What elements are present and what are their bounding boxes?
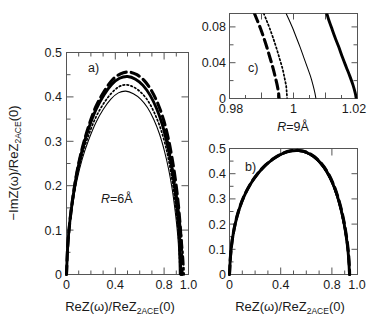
panel-c-tag: c) [248,61,258,75]
panel-a-curves [67,72,184,274]
panel-a-xtick-2: 0.4 [107,278,124,292]
panel-a-xlabel-sub: 2ACE [137,306,160,316]
panel-b-ytick-3: 0.3 [209,192,226,206]
panel-c-annotation: R=9Å [277,119,309,134]
panel-b-xtick-2: 0.4 [272,278,289,292]
panel-c-xtick-2: 1 [290,102,297,116]
panel-b-ytick-2: 0.2 [209,218,226,232]
panel-b-ytick-5: 0.5 [209,142,226,156]
svg-text:ReZ(ω)/ReZ2ACE(0): ReZ(ω)/ReZ2ACE(0) [235,299,345,316]
y-axis-title-pre: −ImZ(ω)/ReZ [6,144,21,221]
panel-b-xlabel-post: (0) [329,299,345,314]
panel-a-xtick-5: 1.0 [180,278,197,292]
panel-b-x-axis-title: ReZ(ω)/ReZ2ACE(0) [235,299,345,316]
panel-b-ytick-0: 0 [219,268,226,282]
panel-a-xlabel-post: (0) [159,299,175,314]
panel-b-xtick-5: 1.0 [348,278,365,292]
panel-b-xtick-0: 0 [226,278,233,292]
panel-c-annotation-symbol: R [277,120,286,134]
panel-a-ytick-1: 0.1 [45,224,62,238]
panel-a-curve-thick-dashed [67,72,183,274]
panel-c-frame [230,14,358,99]
panel-a-curve-dotted [67,85,181,275]
panel-a-ytick-4: 0.4 [45,90,62,104]
panel-a-xtick-4: 0.8 [155,278,172,292]
panel-a-ytick-3: 0.3 [45,135,62,149]
panel-b-ytick-1: 0.1 [209,243,226,257]
panel-b-xlabel-sub: 2ACE [307,306,330,316]
panel-c-xtick-4: 1.02 [342,102,366,116]
panel-a-xtick-0: 0 [63,278,70,292]
y-axis-title-sub: 2ACE [13,121,23,144]
panel-a-tag: a) [88,61,99,75]
panel-c-curve-thin-solid [286,14,316,99]
panel-a-annotation: R=6Å [101,191,133,206]
panel-c-ytick-2: 0.04 [202,56,226,70]
panel-b-tag: b) [245,160,256,174]
panel-b-xlabel-pre: ReZ(ω)/ReZ [235,299,307,314]
panel-a-ytick-0: 0 [55,268,62,282]
panel-b: 0 0.1 0.2 0.3 0.4 0.5 0 0.4 0.8 1.0 b) [209,142,366,292]
svg-text:−ImZ(ω)/ReZ2ACE(0): −ImZ(ω)/ReZ2ACE(0) [6,105,23,220]
svg-text:ReZ(ω)/ReZ2ACE(0): ReZ(ω)/ReZ2ACE(0) [65,299,175,316]
panel-c-curve-thick-solid [327,14,356,99]
panel-b-ytick-4: 0.4 [209,167,226,181]
panel-c-xticks [230,14,358,99]
panel-c-annotation-value: =9Å [286,119,309,134]
panel-c-curve-dotted [264,14,287,99]
panel-c: 0 0.04 0.08 0.98 1 1.02 c) R=9Å [202,14,367,135]
panel-a-ytick-2: 0.2 [45,179,62,193]
panel-a: 0 0.1 0.2 0.3 0.4 0.5 0 0.4 0.8 1.0 a) R… [45,46,198,292]
panel-a-x-axis-title: ReZ(ω)/ReZ2ACE(0) [65,299,175,316]
figure-root: 0 0.1 0.2 0.3 0.4 0.5 0 0.4 0.8 1.0 a) R… [0,0,367,332]
y-axis-title: −ImZ(ω)/ReZ2ACE(0) [6,105,23,220]
panel-c-curves [254,14,356,99]
panel-a-ytick-5: 0.5 [45,46,62,60]
panel-a-xlabel-pre: ReZ(ω)/ReZ [65,299,137,314]
panel-b-xtick-4: 0.8 [323,278,340,292]
panel-c-xtick-0: 0.98 [219,102,243,116]
panel-a-annotation-symbol: R [101,192,110,206]
panel-c-curve-thick-dashed [254,14,279,99]
panel-a-annotation-value: =6Å [110,191,133,206]
y-axis-title-post: (0) [6,105,21,121]
panel-c-ytick-4: 0.08 [202,20,226,34]
panel-a-curve-thick-solid [67,76,181,274]
